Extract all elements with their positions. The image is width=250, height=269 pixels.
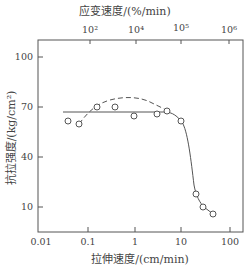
svg-text:10: 10 — [21, 201, 33, 212]
svg-text:10²: 10² — [82, 24, 98, 35]
y-tick-labels: 100 70 40 10 — [15, 51, 33, 212]
svg-text:1: 1 — [132, 236, 138, 247]
svg-text:100: 100 — [221, 236, 239, 247]
top-axis — [90, 40, 229, 44]
data-point — [210, 211, 216, 217]
svg-text:10⁴: 10⁴ — [128, 24, 144, 35]
data-point — [76, 121, 82, 127]
x-axis — [88, 227, 230, 232]
data-points — [65, 104, 216, 217]
plot-frame — [38, 40, 243, 232]
svg-text:10⁵: 10⁵ — [173, 22, 189, 33]
top-tick-labels: 10² 10⁴ 10⁵ 10⁶ — [82, 22, 237, 35]
svg-text:10: 10 — [175, 236, 187, 247]
data-point — [131, 113, 137, 119]
data-point — [200, 204, 206, 210]
y-axis — [38, 57, 43, 207]
svg-text:40: 40 — [21, 151, 33, 162]
svg-text:0.01: 0.01 — [30, 236, 51, 247]
svg-text:100: 100 — [15, 51, 33, 62]
x-tick-labels: 0.01 0.1 1 10 100 — [30, 236, 239, 247]
data-point — [154, 111, 160, 117]
dashed-fit-curve — [79, 98, 167, 124]
data-point — [94, 104, 100, 110]
data-point — [112, 104, 118, 110]
data-point — [193, 191, 199, 197]
data-point — [65, 118, 71, 124]
svg-text:70: 70 — [21, 101, 33, 112]
data-point — [164, 108, 170, 114]
svg-text:10⁶: 10⁶ — [221, 24, 237, 35]
solid-fit-curve — [63, 112, 213, 214]
svg-text:0.1: 0.1 — [80, 236, 95, 247]
chart-plot: 10² 10⁴ 10⁵ 10⁶ 100 70 40 10 0.01 0.1 1 … — [0, 0, 250, 269]
data-point — [178, 118, 184, 124]
